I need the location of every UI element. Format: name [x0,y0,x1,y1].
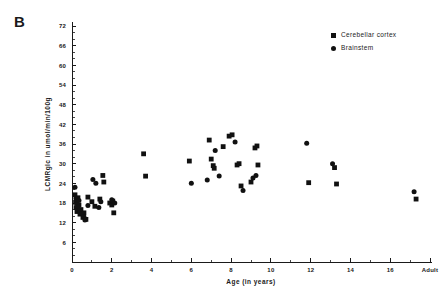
data-point-square [89,199,94,204]
y-tick-label: 60 [59,63,67,69]
data-point-circle [189,181,194,186]
x-tick-label: 2 [110,267,114,273]
data-point-circle [96,205,101,210]
axes-layer [72,22,432,262]
y-tick-label: 36 [59,141,67,147]
y-tick-label: 24 [59,181,67,187]
data-point-circle [112,201,117,206]
data-point-circle [82,218,87,223]
data-point-square [255,144,260,149]
data-point-square [237,161,242,166]
x-tick-label: 12 [307,267,315,273]
data-point-circle [90,177,95,182]
y-tick-label: 72 [59,23,67,29]
x-tick-label: 0 [70,267,74,273]
data-point-circle [253,173,258,178]
data-point-square [101,180,106,185]
series-brainstem [72,140,416,223]
data-point-square [414,197,419,202]
y-tick-label: 54 [59,82,67,88]
y-tick-label: 66 [59,43,67,49]
data-point-circle [241,188,246,193]
data-point-square [100,173,105,178]
data-point-square [207,138,212,143]
x-tick-label: 8 [229,267,233,273]
data-point-circle [93,181,98,186]
y-tick-label: 12 [59,220,67,226]
data-point-circle [330,161,335,166]
data-points-layer [72,132,418,222]
data-point-square [141,151,146,156]
data-point-square [209,157,214,162]
data-point-square [111,210,116,215]
data-point-square [143,174,148,179]
x-tick-label: 16 [387,267,395,273]
x-tick-label: 14 [347,267,355,273]
y-tick-label: 30 [59,161,67,167]
data-point-circle [98,199,103,204]
data-point-circle [217,174,222,179]
data-point-square [306,180,311,185]
x-tick-label: 4 [150,267,154,273]
data-point-circle [72,185,77,190]
data-point-square [86,195,91,200]
data-point-square [212,166,217,171]
data-point-circle [213,148,218,153]
data-point-circle [412,189,417,194]
y-tick-label: 48 [59,102,67,108]
y-axis-title: LCMRglc in umol/min/100g [44,97,52,191]
x-tick-label: 10 [267,267,275,273]
y-tick-label: 18 [59,200,67,206]
data-point-circle [304,141,309,146]
data-point-circle [205,178,210,183]
y-tick-label: 42 [59,122,67,128]
data-point-square [230,132,235,137]
data-point-square [334,182,339,187]
data-point-circle [85,203,90,208]
y-tick-label: 6 [62,240,66,246]
scatter-plot: 612182430364248546066720246810121416Adul… [0,0,448,290]
series-cerebellar-cortex [73,132,419,221]
axis-labels-layer: 612182430364248546066720246810121416Adul… [44,23,438,286]
figure-panel-b: B Cerebellar cortex Brainstem 6121824303… [0,0,448,290]
data-point-square [187,159,192,164]
x-axis-title: Age (in years) [226,278,275,286]
data-point-circle [76,198,81,203]
data-point-square [221,144,226,149]
x-tick-label: 6 [190,267,194,273]
data-point-circle [233,140,238,145]
data-point-square [239,184,244,189]
x-tick-label: Adult [422,267,438,273]
data-point-square [256,163,261,168]
